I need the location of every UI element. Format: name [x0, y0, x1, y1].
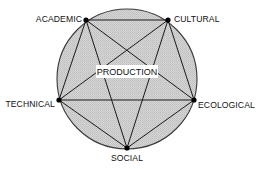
production-label: PRODUCTION — [97, 67, 158, 77]
node-label-academic: ACADEMIC — [36, 14, 82, 24]
node-dot-technical — [56, 97, 61, 102]
enclosing-circle — [57, 9, 197, 149]
node-dot-ecological — [191, 97, 196, 102]
node-dot-social — [124, 145, 129, 150]
node-label-technical: TECHNICAL — [5, 99, 55, 109]
production-pentagon-diagram: PRODUCTION ACADEMIC CULTURAL ECOLOGICAL … — [0, 0, 259, 169]
node-dot-cultural — [165, 17, 170, 22]
node-label-ecological: ECOLOGICAL — [198, 100, 255, 110]
node-dot-academic — [83, 17, 88, 22]
node-label-cultural: CULTURAL — [174, 14, 220, 24]
node-label-social: SOCIAL — [111, 153, 143, 163]
